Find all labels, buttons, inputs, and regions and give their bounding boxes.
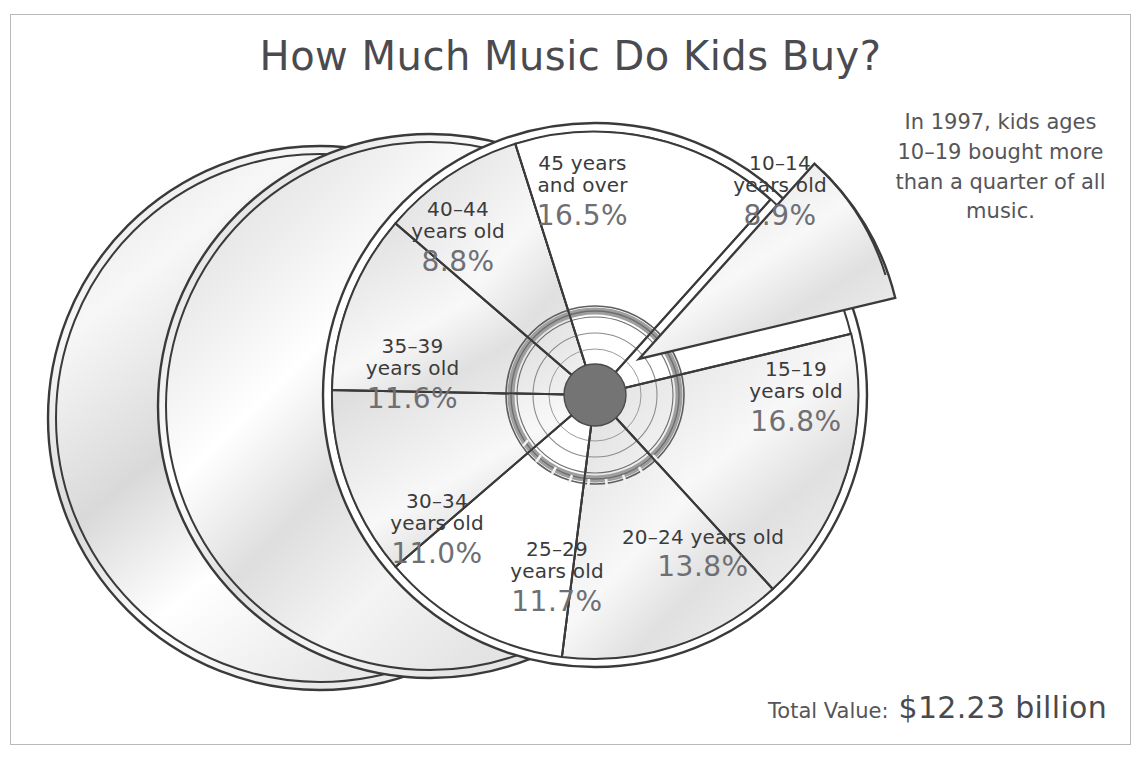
slice-category-45-and-over-line2: and over (500, 174, 665, 196)
slice-category-15-19-line2: years old (706, 380, 886, 402)
slice-percent-35-39: 11.6% (330, 383, 495, 414)
slice-percent-15-19: 16.8% (706, 406, 886, 437)
slice-category-10-14: 10–14 (700, 152, 860, 174)
total-value-label: Total Value: (768, 699, 888, 723)
slice-percent-40-44: 8.8% (378, 246, 538, 277)
slice-category-35-39-line2: years old (330, 357, 495, 379)
slice-label-35-39: 35–39 years old 11.6% (330, 335, 495, 414)
slice-label-30-34: 30–34 years old 11.0% (352, 490, 522, 569)
slice-percent-25-29: 11.7% (482, 586, 632, 617)
slice-category-35-39: 35–39 (330, 335, 495, 357)
slice-percent-10-14: 8.9% (700, 200, 860, 231)
page-title: How Much Music Do Kids Buy? (0, 33, 1141, 79)
slice-category-30-34-line2: years old (352, 512, 522, 534)
slice-category-45-and-over: 45 years (500, 152, 665, 174)
slice-percent-30-34: 11.0% (352, 538, 522, 569)
annotation-note: In 1997, kids ages 10–19 bought more tha… (893, 108, 1108, 227)
chart-page: How Much Music Do Kids Buy? In 1997, kid… (0, 0, 1141, 759)
total-value-amount: $12.23 billion (899, 690, 1107, 725)
slice-category-30-34: 30–34 (352, 490, 522, 512)
slice-category-15-19: 15–19 (706, 358, 886, 380)
slice-label-15-19: 15–19 years old 16.8% (706, 358, 886, 437)
cd-center-hole (564, 364, 626, 426)
slice-percent-45-and-over: 16.5% (500, 200, 665, 231)
total-value-line: Total Value: $12.23 billion (768, 690, 1107, 725)
slice-category-10-14-line2: years old (700, 174, 860, 196)
slice-label-45-and-over: 45 years and over 16.5% (500, 152, 665, 231)
slice-label-10-14: 10–14 years old 8.9% (700, 152, 860, 231)
